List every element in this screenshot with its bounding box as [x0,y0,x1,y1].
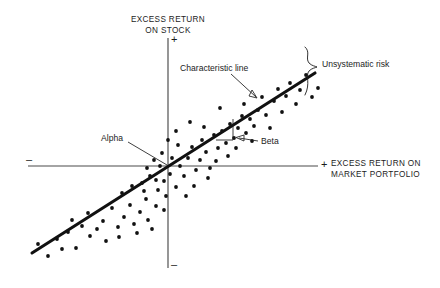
characteristic-line [32,73,315,253]
scatter-point [182,174,186,178]
scatter-point [198,158,202,162]
scatter-point [294,102,298,106]
scatter-point [188,120,192,124]
x-axis-minus-sign: – [26,153,33,165]
scatter-point [224,141,228,145]
axes-group [28,38,318,268]
y-axis-caption-line2: ON STOCK [145,26,191,35]
unsystematic-risk-label: Unsystematic risk [322,59,390,69]
scatter-point [154,204,158,208]
scatter-point [95,227,99,231]
scatter-point [236,126,240,130]
scatter-point [74,246,78,250]
scatter-point [156,188,160,192]
scatter-point [204,150,208,154]
scatter-point [146,218,150,222]
scatter-point [70,218,74,222]
scatter-point [174,185,178,189]
scatter-point [178,164,182,168]
characteristic-line-label: Characteristic line [180,63,249,73]
scatter-point [36,242,40,246]
scatter-point [280,110,284,114]
scatter-point [184,194,188,198]
scatter-point [80,224,84,228]
scatter-point [174,129,178,133]
scatter-point [128,203,132,207]
scatter-point [208,166,212,170]
x-axis-caption: EXCESS RETURN ON MARKET PORTFOLIO [331,159,421,179]
scatter-point [152,158,156,162]
x-axis-plus-sign: + [321,158,327,170]
scatter-point [202,125,206,129]
characteristic-line-leader [231,74,256,97]
alpha-label: Alpha [101,133,123,143]
scatter-point [142,189,146,193]
scatter-point [122,215,126,219]
scatter-point [162,208,166,212]
scatter-point [168,172,172,176]
scatter-point [86,211,90,215]
scatter-point [248,117,252,121]
characteristic-line-figure: + – – + EXCESS RETURN ON STOCK EXCESS RE… [0,0,440,288]
x-axis-caption-line1: EXCESS RETURN ON [331,159,421,168]
scatter-point [194,168,198,172]
scatter-point [145,166,149,170]
scatter-point [260,95,264,99]
scatter-point [166,138,170,142]
scatter-point [244,131,248,135]
scatter-point [101,219,105,223]
beta-label: Beta [261,136,279,146]
scatter-point [176,143,180,147]
y-axis-caption: EXCESS RETURN ON STOCK [131,15,205,35]
scatter-point [190,145,194,149]
scatter-point [135,231,139,235]
scatter-point [284,94,288,98]
scatter-point [154,178,158,182]
scatter-point [252,124,256,128]
scatter-point [242,102,246,106]
scatter-point [116,225,120,229]
scatter-point [46,254,50,258]
scatter-point [158,164,162,168]
scatter-point [164,194,168,198]
scatter-point [104,239,108,243]
scatter-point [264,113,268,117]
y-axis-minus-sign: – [171,258,178,270]
scatter-point [218,106,222,110]
scatter-point [150,227,154,231]
scatter-point [170,156,174,160]
scatter-point [60,247,64,251]
scatter-point [316,86,320,90]
scatter-point [298,88,302,92]
figure-canvas: + – – + EXCESS RETURN ON STOCK EXCESS RE… [0,0,440,288]
scatter-point [192,184,196,188]
scatter-point [276,87,280,91]
scatter-point [160,151,164,155]
scatter-point [132,222,136,226]
scatter-point [117,235,121,239]
scatter-point [144,197,148,201]
beta-leader [239,138,258,141]
scatter-point [200,138,204,142]
y-axis-caption-line1: EXCESS RETURN [131,15,205,24]
scatter-point [234,146,238,150]
scatter-point [88,234,92,238]
scatter-point [186,156,190,160]
scatter-point [214,159,218,163]
scatter-point [310,95,314,99]
scatter-point [268,126,272,130]
scatter-point [206,176,210,180]
scatter-point [138,210,142,214]
scatter-point [288,81,292,85]
unsystematic-risk-brace [305,47,317,95]
x-axis-caption-line2: MARKET PORTFOLIO [331,170,420,179]
scatter-point [226,154,230,158]
scatter-point [162,179,166,183]
scatter-point [216,146,220,150]
scatter-point [110,206,114,210]
